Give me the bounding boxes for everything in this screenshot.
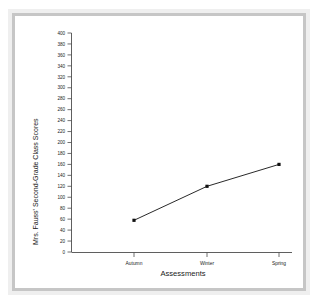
y-tick-label: 220 (57, 129, 65, 134)
y-tick-label: 180 (57, 151, 65, 156)
y-tick-label: 80 (60, 206, 66, 211)
x-axis-ticks (134, 253, 279, 258)
y-tick-label: 400 (57, 31, 65, 36)
y-tick-label: 120 (57, 184, 65, 189)
y-tick-label: 100 (57, 195, 65, 200)
y-tick-label: 40 (60, 228, 66, 233)
x-tick-label-winter: Winter (200, 261, 215, 266)
y-tick-label: 240 (57, 118, 65, 123)
y-tick-label: 380 (57, 42, 65, 47)
x-axis-title-text: Assessments (160, 269, 205, 278)
y-tick-label: 0 (62, 250, 65, 255)
data-point-autumn[interactable] (132, 219, 135, 222)
x-axis-tick-labels: Autumn Winter Spring (126, 261, 287, 266)
y-tick-label: 140 (57, 173, 65, 178)
y-axis-title-text: Mrs. Fauss' Second-Grade Class Scores (32, 118, 39, 245)
y-tick-label: 60 (60, 217, 66, 222)
y-tick-label: 280 (57, 96, 65, 101)
y-tick-label: 160 (57, 162, 65, 167)
y-tick-label: 200 (57, 140, 65, 145)
data-series-scores (132, 163, 280, 222)
data-point-winter[interactable] (205, 185, 208, 188)
y-axis-title: Mrs. Fauss' Second-Grade Class Scores (32, 118, 39, 245)
x-tick-label-spring: Spring (272, 261, 286, 266)
y-tick-label: 260 (57, 107, 65, 112)
y-tick-label: 20 (60, 239, 66, 244)
y-axis-ticks (68, 33, 72, 252)
x-tick-label-autumn: Autumn (126, 261, 143, 266)
data-point-spring[interactable] (277, 163, 280, 166)
chart-page: Mrs. Fauss' Second-Grade Class Scores (0, 0, 318, 303)
y-tick-label: 300 (57, 85, 65, 90)
y-tick-label: 340 (57, 64, 65, 69)
y-axis-tick-labels: 0 20 40 60 80 100 120 140 160 180 200 22… (57, 31, 65, 255)
series-line-path (134, 164, 279, 220)
line-chart: Mrs. Fauss' Second-Grade Class Scores (0, 0, 318, 303)
y-tick-label: 360 (57, 53, 65, 58)
chart-svg: Mrs. Fauss' Second-Grade Class Scores (0, 0, 318, 303)
y-tick-label: 320 (57, 75, 65, 80)
